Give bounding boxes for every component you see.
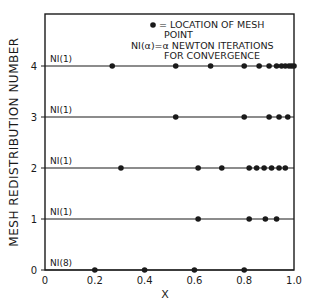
legend-dot-icon bbox=[150, 22, 156, 28]
mesh-point bbox=[282, 165, 288, 171]
mesh-point bbox=[109, 63, 115, 69]
x-tick-label: 1.0 bbox=[286, 275, 302, 286]
newton-iterations-label: NI(1) bbox=[50, 105, 72, 115]
newton-iterations-label: NI(1) bbox=[50, 207, 72, 217]
x-axis-ticks: 00.20.40.60.81.0 bbox=[42, 275, 302, 286]
mesh-point bbox=[266, 63, 272, 69]
mesh-point bbox=[192, 267, 198, 273]
y-axis-ticks: 01234 bbox=[31, 61, 45, 276]
newton-iterations-label: NI(1) bbox=[50, 54, 72, 64]
mesh-point bbox=[274, 63, 280, 69]
mesh-redistribution-chart: NI(8)NI(1)NI(1)NI(1)NI(1) 00.20.40.60.81… bbox=[0, 0, 313, 308]
mesh-point bbox=[208, 63, 214, 69]
mesh-point bbox=[118, 165, 124, 171]
mesh-point bbox=[276, 114, 282, 120]
x-tick-label: 0 bbox=[42, 275, 48, 286]
mesh-point bbox=[276, 165, 282, 171]
x-tick-label: 0.4 bbox=[137, 275, 153, 286]
legend-line-2: POINT bbox=[164, 29, 193, 40]
mesh-point bbox=[173, 114, 179, 120]
mesh-point bbox=[241, 114, 247, 120]
x-tick-label: 0.6 bbox=[186, 275, 202, 286]
mesh-row-2: NI(1) bbox=[45, 156, 294, 171]
legend: = LOCATION OF MESH POINT NI(α)=α NEWTON … bbox=[131, 19, 274, 61]
y-tick-label: 3 bbox=[31, 112, 37, 123]
y-axis-label: MESH REDISTRIBUTION NUMBER bbox=[7, 37, 21, 246]
mesh-point bbox=[254, 165, 260, 171]
mesh-point bbox=[274, 216, 280, 222]
mesh-row-1: NI(1) bbox=[45, 207, 294, 222]
y-tick-label: 1 bbox=[31, 214, 37, 225]
mesh-point bbox=[195, 165, 201, 171]
mesh-point bbox=[285, 114, 291, 120]
mesh-point bbox=[256, 63, 262, 69]
mesh-point bbox=[142, 267, 148, 273]
x-tick-label: 0.2 bbox=[87, 275, 103, 286]
mesh-point bbox=[195, 216, 201, 222]
mesh-point bbox=[173, 63, 179, 69]
y-tick-label: 0 bbox=[31, 265, 37, 276]
mesh-point bbox=[246, 216, 252, 222]
x-tick-label: 0.8 bbox=[236, 275, 252, 286]
mesh-point bbox=[241, 267, 247, 273]
mesh-point bbox=[269, 165, 275, 171]
mesh-row-3: NI(1) bbox=[45, 105, 294, 120]
mesh-rows: NI(8)NI(1)NI(1)NI(1)NI(1) bbox=[45, 54, 297, 273]
mesh-point bbox=[219, 165, 225, 171]
newton-iterations-label: NI(1) bbox=[50, 156, 72, 166]
x-axis-label: X bbox=[161, 288, 169, 301]
y-tick-label: 4 bbox=[31, 61, 37, 72]
newton-iterations-label: NI(8) bbox=[50, 258, 72, 268]
mesh-point bbox=[92, 267, 98, 273]
mesh-point bbox=[263, 216, 269, 222]
legend-line-4: FOR CONVERGENCE bbox=[164, 50, 260, 61]
mesh-point bbox=[241, 63, 247, 69]
mesh-point bbox=[246, 165, 252, 171]
y-tick-label: 2 bbox=[31, 163, 37, 174]
mesh-point bbox=[266, 114, 272, 120]
mesh-point bbox=[291, 63, 297, 69]
mesh-point bbox=[261, 165, 267, 171]
